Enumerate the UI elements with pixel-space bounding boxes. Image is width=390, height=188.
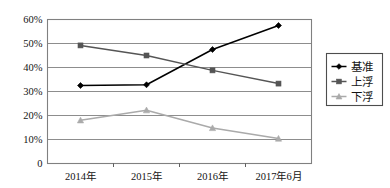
y-tick-label: 40% xyxy=(23,62,43,73)
x-tick-label: 2017年6月 xyxy=(255,170,301,182)
x-tick-label: 2014年 xyxy=(65,170,96,182)
y-tick-label: 0 xyxy=(37,158,42,169)
x-tick-label: 2015年 xyxy=(131,170,162,182)
y-tick-label: 20% xyxy=(23,110,43,121)
y-axis-labels: 010%20%30%40%50%60% xyxy=(23,14,43,169)
legend-label: 下浮 xyxy=(351,91,373,103)
data-point-marker xyxy=(144,53,149,58)
data-point-marker xyxy=(337,79,342,84)
data-point-marker xyxy=(78,43,83,48)
y-tick-label: 60% xyxy=(23,14,43,25)
y-tick-label: 10% xyxy=(23,134,43,145)
line-chart: 010%20%30%40%50%60%2014年2015年2016年2017年6… xyxy=(0,0,390,188)
chart-canvas: 010%20%30%40%50%60%2014年2015年2016年2017年6… xyxy=(0,0,390,188)
legend-label: 基准 xyxy=(351,61,373,73)
x-axis: 2014年2015年2016年2017年6月 xyxy=(65,164,302,182)
data-point-marker xyxy=(276,81,281,86)
data-point-marker xyxy=(210,68,215,73)
legend-label: 上浮 xyxy=(351,76,373,88)
y-tick-label: 50% xyxy=(23,38,43,49)
legend: 基准上浮下浮 xyxy=(327,54,383,106)
y-tick-label: 30% xyxy=(23,86,43,97)
x-tick-label: 2016年 xyxy=(197,170,228,182)
